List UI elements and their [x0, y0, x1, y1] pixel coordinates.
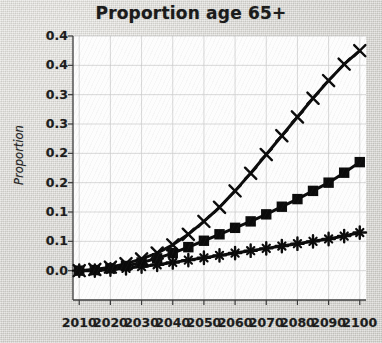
- chart-figure: Proportion age 65+ Proportion 0.00.10.10…: [0, 0, 382, 343]
- x-axis-tick-labels: 2010202020302040205020602070208020902100: [0, 313, 382, 335]
- x-tick-label: 2100: [338, 315, 382, 330]
- plot-area: [0, 0, 382, 343]
